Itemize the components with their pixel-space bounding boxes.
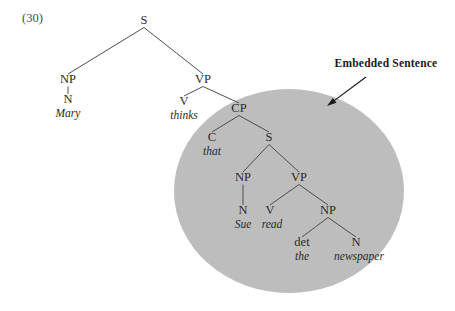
tree-node-n1: N xyxy=(63,92,72,106)
tree-node-n3: N xyxy=(351,235,360,249)
example-number: (30) xyxy=(22,11,43,25)
tree-word-w5: read xyxy=(262,218,283,230)
syntax-tree-diagram: SNPNMaryVPVthinksCPCthatSNPNSueVPVreadNP… xyxy=(0,0,455,311)
tree-node-np1: NP xyxy=(60,72,76,86)
tree-word-w1: Mary xyxy=(55,107,82,120)
tree-word-w2: thinks xyxy=(170,109,198,121)
tree-node-s2: S xyxy=(266,130,273,144)
tree-node-s1: S xyxy=(141,13,148,27)
tree-node-c1: C xyxy=(208,130,216,144)
tree-branch xyxy=(144,28,203,75)
tree-word-w4: Sue xyxy=(235,218,252,230)
tree-node-cp: CP xyxy=(231,101,246,115)
tree-node-v2: V xyxy=(265,203,274,217)
tree-node-vp2: VP xyxy=(291,170,307,184)
tree-word-w6: the xyxy=(295,250,309,262)
embedded-sentence-callout-label: Embedded Sentence xyxy=(335,57,438,69)
tree-node-v1: V xyxy=(179,94,188,108)
tree-branch xyxy=(68,28,144,75)
tree-node-np3: NP xyxy=(320,203,336,217)
tree-node-det: det xyxy=(294,235,310,249)
callout-arrow-line xyxy=(330,77,366,104)
tree-word-w7: newspaper xyxy=(334,250,384,263)
tree-node-n2: N xyxy=(238,203,247,217)
tree-node-np2: NP xyxy=(235,170,251,184)
tree-word-w3: that xyxy=(203,145,222,157)
figure-canvas: SNPNMaryVPVthinksCPCthatSNPNSueVPVreadNP… xyxy=(0,0,455,311)
tree-node-vp1: VP xyxy=(195,72,211,86)
